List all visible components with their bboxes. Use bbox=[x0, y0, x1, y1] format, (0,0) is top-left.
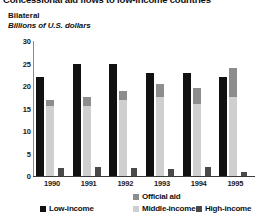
bar-low-income bbox=[109, 64, 117, 177]
bar-group bbox=[218, 41, 254, 176]
bar-group bbox=[108, 41, 144, 176]
x-tick-label: 1993 bbox=[144, 179, 180, 188]
bar-high-income bbox=[205, 167, 211, 176]
chart-title: Concessional aid flows to low-income cou… bbox=[3, 0, 259, 4]
x-tick-label: 1991 bbox=[71, 179, 107, 188]
bar-segment-official-aid bbox=[156, 84, 164, 98]
bar-middle-income-stack bbox=[229, 68, 237, 176]
bar-group bbox=[72, 41, 108, 176]
bar-middle-income-stack bbox=[83, 97, 91, 176]
y-tick-label: 15 bbox=[9, 104, 31, 113]
bar-groups bbox=[34, 41, 254, 176]
x-tick-label: 1990 bbox=[34, 179, 70, 188]
bar-segment-middle-income bbox=[193, 104, 201, 176]
x-axis-labels: 199019911992199319941995 bbox=[34, 179, 254, 193]
bar-segment-middle-income bbox=[46, 106, 54, 176]
bar-group bbox=[35, 41, 71, 176]
axis-unit-label: Billions of U.S. dollars bbox=[8, 21, 91, 30]
bar-segment-official-aid bbox=[119, 91, 127, 100]
legend-label-official-aid: Official aid bbox=[142, 192, 181, 201]
bar-middle-income-stack bbox=[119, 91, 127, 177]
y-axis-ticks: 051015202530 bbox=[5, 41, 31, 177]
bar-high-income bbox=[58, 168, 64, 176]
x-tick-label: 1995 bbox=[217, 179, 253, 188]
chart-legend: Official aid Low-income Middle-income Hi… bbox=[0, 192, 262, 218]
bar-low-income bbox=[146, 73, 154, 177]
x-axis-line bbox=[33, 176, 255, 177]
x-tick-label: 1994 bbox=[181, 179, 217, 188]
y-tick-label: 0 bbox=[9, 172, 31, 181]
legend-swatch-high-income bbox=[196, 206, 202, 212]
legend-item-official-aid: Official aid bbox=[133, 192, 181, 201]
y-tick-label: 30 bbox=[9, 37, 31, 46]
y-tick-label: 5 bbox=[9, 149, 31, 158]
bar-middle-income-stack bbox=[156, 84, 164, 176]
legend-label-middle-income: Middle-income bbox=[142, 204, 195, 213]
legend-item-low-income: Low-income bbox=[40, 204, 94, 213]
bar-low-income bbox=[219, 77, 227, 176]
bar-group bbox=[182, 41, 218, 176]
chart-figure: Concessional aid flows to low-income cou… bbox=[0, 0, 262, 218]
bar-segment-middle-income bbox=[119, 100, 127, 177]
bar-segment-middle-income bbox=[83, 106, 91, 176]
legend-swatch-middle-income bbox=[133, 206, 139, 212]
legend-item-high-income: High-income bbox=[196, 204, 251, 213]
bar-segment-middle-income bbox=[156, 97, 164, 176]
x-tick-label: 1992 bbox=[107, 179, 143, 188]
y-tick-label: 25 bbox=[9, 59, 31, 68]
y-tick-label: 20 bbox=[9, 82, 31, 91]
bar-low-income bbox=[36, 77, 44, 176]
bar-middle-income-stack bbox=[193, 88, 201, 176]
bar-segment-official-aid bbox=[46, 100, 54, 107]
bar-high-income bbox=[168, 169, 174, 176]
bar-low-income bbox=[183, 73, 191, 177]
y-tick-label: 10 bbox=[9, 127, 31, 136]
bar-low-income bbox=[73, 64, 81, 177]
legend-swatch-official-aid bbox=[133, 194, 139, 200]
bar-high-income bbox=[95, 167, 101, 176]
bar-segment-official-aid bbox=[229, 68, 237, 97]
bar-high-income bbox=[241, 172, 247, 177]
bar-high-income bbox=[131, 168, 137, 176]
bar-group bbox=[145, 41, 181, 176]
legend-item-middle-income: Middle-income bbox=[133, 204, 195, 213]
bar-segment-official-aid bbox=[83, 97, 91, 106]
panel-heading: Bilateral bbox=[8, 11, 40, 20]
bar-middle-income-stack bbox=[46, 100, 54, 177]
legend-label-low-income: Low-income bbox=[49, 204, 94, 213]
legend-swatch-low-income bbox=[40, 206, 46, 212]
legend-label-high-income: High-income bbox=[205, 204, 251, 213]
bar-segment-middle-income bbox=[229, 97, 237, 176]
bar-segment-official-aid bbox=[193, 88, 201, 104]
